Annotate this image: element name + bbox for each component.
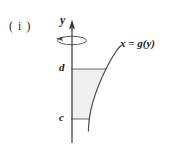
figure-container: ( i ) y d c x = g(y) xyxy=(0,0,171,146)
shaded-region xyxy=(72,69,106,119)
curve-equation-label: x = g(y) xyxy=(120,38,155,49)
tick-label-c: c xyxy=(59,112,64,123)
part-label: ( i ) xyxy=(9,21,32,33)
y-axis-label: y xyxy=(60,15,65,27)
tick-label-d: d xyxy=(59,62,65,73)
